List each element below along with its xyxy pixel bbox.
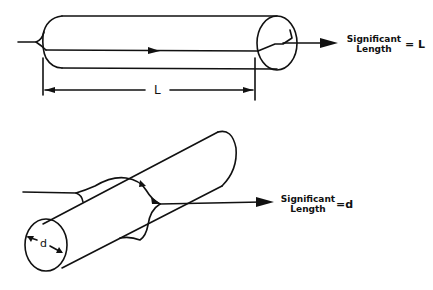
top-flow-arrowhead xyxy=(148,47,160,54)
bottom-equals-d: =d xyxy=(336,198,353,211)
bottom-diameter-label: d xyxy=(40,237,47,250)
bottom-significant-length-label: Significant Length xyxy=(272,194,344,214)
top-dimension-line xyxy=(43,58,255,100)
top-equals-L: = L xyxy=(405,38,425,51)
top-significant-length-label: Significant Length xyxy=(338,34,410,54)
label-line2: Length xyxy=(272,204,344,214)
top-dimension-label: L xyxy=(154,83,161,97)
label-line1: Significant xyxy=(272,194,344,204)
top-output-arrowhead xyxy=(320,38,338,48)
label-line1: Significant xyxy=(338,34,410,44)
bottom-fiber-path xyxy=(23,178,262,240)
top-fiber-path xyxy=(18,30,325,51)
label-line2: Length xyxy=(338,44,410,54)
top-cylinder xyxy=(43,16,297,70)
